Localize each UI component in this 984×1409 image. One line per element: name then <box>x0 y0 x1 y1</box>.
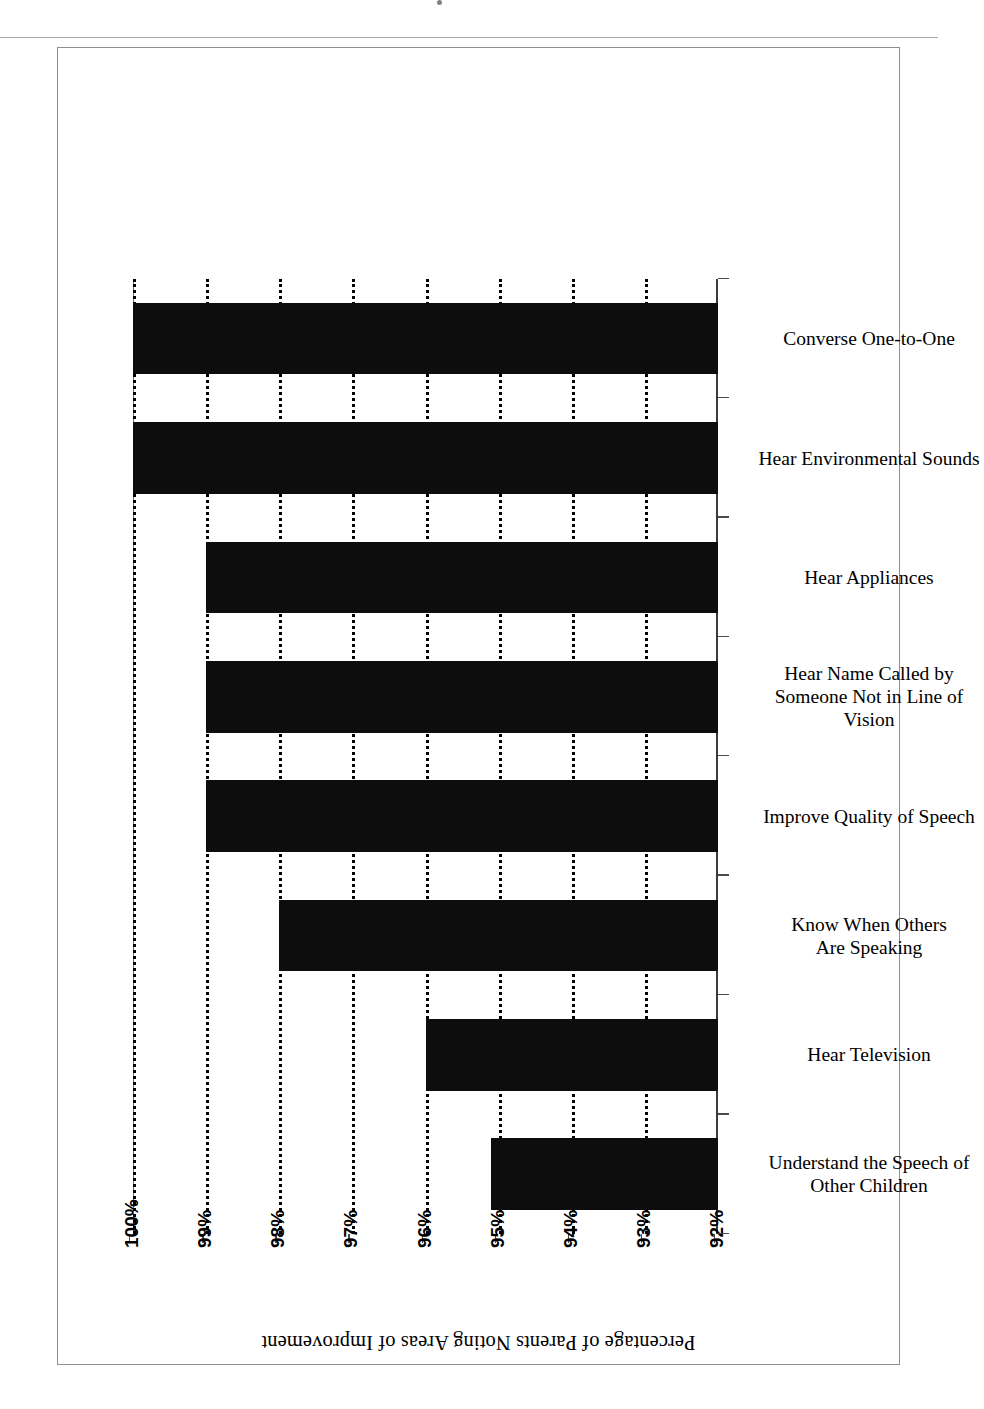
bar[interactable] <box>491 1139 718 1211</box>
category-axis-label: Hear Name Called bySomeone Not in Line o… <box>744 662 984 731</box>
category-axis-label-line: Know When Others <box>744 913 984 936</box>
category-axis-label-line: Understand the Speech of <box>744 1151 984 1174</box>
category-axis-label-line: Hear Name Called by <box>744 662 984 685</box>
category-axis-label: Hear Television <box>744 1043 984 1066</box>
bar[interactable] <box>206 542 718 614</box>
category-axis-tick <box>718 397 729 398</box>
chart-rotor: Percentage of Parents Noting Areas of Im… <box>58 48 899 1364</box>
bar[interactable] <box>133 303 718 375</box>
page-top-rule <box>0 37 938 38</box>
chart-title-text: Percentage of Parents Noting Areas of Im… <box>261 1331 695 1354</box>
category-axis-tick <box>718 1233 729 1234</box>
category-axis-label-line: Are Speaking <box>744 936 984 959</box>
category-axis-label-line: Hear Television <box>744 1043 984 1066</box>
category-axis-label-line: Hear Environmental Sounds <box>744 447 984 470</box>
category-axis-label-line: Hear Appliances <box>744 566 984 589</box>
category-axis-label: Hear Appliances <box>744 566 984 589</box>
bar-chart: Percentage of Parents Noting Areas of Im… <box>58 48 899 1364</box>
bar[interactable] <box>133 422 718 494</box>
scan-speck <box>437 0 442 5</box>
category-axis-tick <box>718 278 729 279</box>
category-axis-label: Understand the Speech ofOther Children <box>744 1151 984 1197</box>
category-axis-label: Know When OthersAre Speaking <box>744 913 984 959</box>
bar[interactable] <box>279 900 718 972</box>
bar[interactable] <box>206 661 718 733</box>
category-axis-label-line: Someone Not in Line of <box>744 685 984 708</box>
category-axis-tick <box>718 874 729 875</box>
category-axis-label: Hear Environmental Sounds <box>744 447 984 470</box>
category-axis-tick <box>718 636 729 637</box>
category-axis-tick <box>718 755 729 756</box>
category-axis-label-line: Improve Quality of Speech <box>744 805 984 828</box>
chart-title: Percentage of Parents Noting Areas of Im… <box>58 1328 899 1358</box>
category-axis-label-line: Vision <box>744 708 984 731</box>
category-axis-tick <box>718 516 729 517</box>
category-axis-tick <box>718 1113 729 1114</box>
category-axis-label: Converse One-to-One <box>744 327 984 350</box>
bar[interactable] <box>206 780 718 852</box>
category-axis-label: Improve Quality of Speech <box>744 805 984 828</box>
category-axis-tick <box>718 994 729 995</box>
bar[interactable] <box>426 1019 719 1091</box>
plot-area: 92%93%94%95%96%97%98%99%100% Understand … <box>133 279 718 1234</box>
category-axis-label-line: Converse One-to-One <box>744 327 984 350</box>
category-axis-label-line: Other Children <box>744 1174 984 1197</box>
